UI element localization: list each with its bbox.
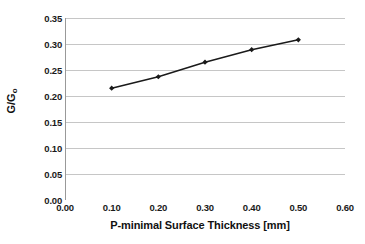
x-axis-tick-label: 0.30: [180, 202, 230, 213]
x-axis-tick-label: 0.40: [227, 202, 277, 213]
x-axis-tick-label: 0.50: [273, 202, 323, 213]
data-point-marker: [202, 60, 207, 65]
plot-svg: [65, 18, 345, 200]
y-axis-tick-labels: 0.000.050.100.150.200.250.300.35: [18, 18, 62, 200]
x-axis-tick-label: 0.20: [133, 202, 183, 213]
plot-area: [65, 18, 345, 200]
data-point-marker: [109, 86, 114, 91]
y-axis-tick-label: 0.10: [22, 143, 62, 154]
data-point-marker: [296, 37, 301, 42]
y-axis-tick-label: 0.20: [22, 91, 62, 102]
line-chart: 0.000.050.100.150.200.250.300.35 0.000.1…: [0, 0, 365, 244]
y-axis-tick-label: 0.15: [22, 117, 62, 128]
y-axis-tick-label: 0.05: [22, 169, 62, 180]
y-axis-tick-label: 0.30: [22, 39, 62, 50]
data-point-marker: [249, 47, 254, 52]
y-axis-title-text: G/G: [5, 93, 17, 113]
x-axis-tick-labels: 0.000.100.200.300.400.500.60: [65, 202, 345, 218]
data-point-marker: [156, 74, 161, 79]
y-axis-title: G/Go: [5, 71, 17, 131]
x-axis-title: P-minimal Surface Thickness [mm]: [45, 219, 355, 231]
y-axis-tick-label: 0.25: [22, 65, 62, 76]
x-axis-tick-label: 0.10: [87, 202, 137, 213]
x-axis-tick-label: 0.00: [40, 202, 90, 213]
y-axis-tick-label: 0.35: [22, 13, 62, 24]
x-axis-tick-label: 0.60: [320, 202, 365, 213]
y-axis-title-subscript: o: [10, 88, 19, 93]
